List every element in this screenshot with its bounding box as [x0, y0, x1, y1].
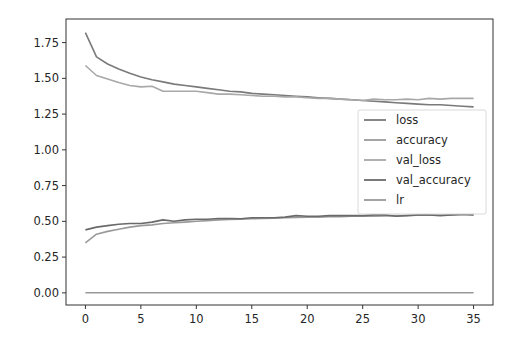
x-tick-label: 30	[411, 312, 426, 326]
legend-label-val-accuracy: val_accuracy	[396, 173, 471, 187]
y-tick-label: 0.50	[33, 214, 59, 228]
x-tick-label: 25	[355, 312, 370, 326]
legend-label-lr: lr	[396, 193, 404, 207]
y-tick-label: 1.00	[33, 143, 59, 157]
legend: lossaccuracyval_lossval_accuracylr	[358, 110, 486, 214]
x-tick-label: 35	[466, 312, 481, 326]
x-tick-label: 15	[244, 312, 259, 326]
x-tick-label: 5	[137, 312, 144, 326]
x-tick-label: 0	[82, 312, 89, 326]
y-tick-label: 1.25	[33, 107, 59, 121]
x-tick-label: 20	[300, 312, 315, 326]
legend-label-val-loss: val_loss	[396, 153, 441, 167]
legend-label-loss: loss	[396, 113, 418, 127]
y-tick-label: 1.50	[33, 71, 59, 85]
y-tick-label: 0.25	[33, 250, 59, 264]
x-tick-label: 10	[189, 312, 204, 326]
legend-label-accuracy: accuracy	[396, 133, 448, 147]
y-tick-label: 1.75	[33, 36, 59, 50]
y-tick-label: 0.00	[33, 286, 59, 300]
training-history-chart: 0.000.250.500.751.001.251.501.75 0510152…	[0, 0, 516, 348]
y-tick-label: 0.75	[33, 179, 59, 193]
